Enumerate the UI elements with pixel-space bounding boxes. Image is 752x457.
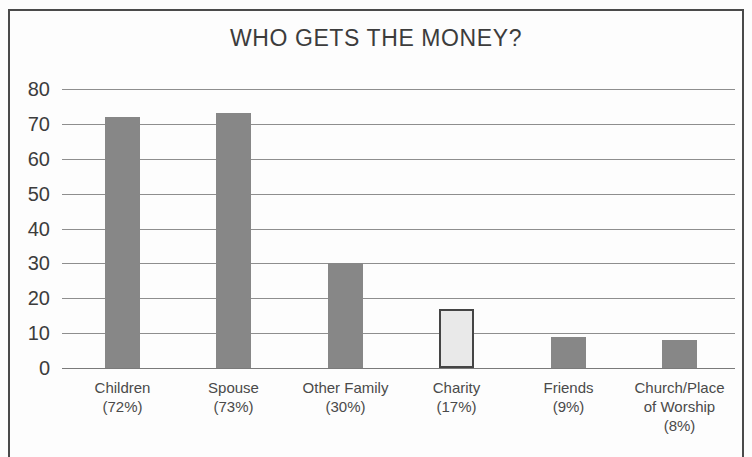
- gridline-60: [62, 159, 735, 160]
- x-label-4: Friends(9%): [509, 378, 629, 416]
- gridline-80: [62, 89, 735, 90]
- y-tick-label-80: 80: [6, 79, 50, 99]
- x-label-name: Spouse: [174, 378, 294, 397]
- plot-area: [62, 89, 735, 368]
- gridline-50: [62, 194, 735, 195]
- x-label-percent: (30%): [286, 397, 406, 416]
- y-axis-tick-labels: 80706050403020100: [0, 89, 50, 368]
- bar-0[interactable]: [105, 117, 140, 368]
- x-label-1: Spouse(73%): [174, 378, 294, 416]
- bar-3[interactable]: [439, 309, 474, 368]
- y-tick-label-10: 10: [6, 323, 50, 343]
- chart-title: WHO GETS THE MONEY?: [0, 25, 752, 52]
- bar-2[interactable]: [328, 263, 363, 368]
- x-label-name: Church/Place: [620, 378, 740, 397]
- bar-5[interactable]: [662, 340, 697, 368]
- x-axis-category-labels: Children(72%)Spouse(73%)Other Family(30%…: [62, 378, 735, 454]
- x-label-3: Charity(17%): [397, 378, 517, 416]
- x-label-5: Church/Placeof Worship(8%): [620, 378, 740, 435]
- x-label-name: Other Family: [286, 378, 406, 397]
- y-tick-label-40: 40: [6, 219, 50, 239]
- chart-figure: WHO GETS THE MONEY? 80706050403020100 Ch…: [0, 0, 752, 457]
- x-label-percent: (72%): [63, 397, 183, 416]
- bar-1[interactable]: [216, 113, 251, 368]
- y-tick-label-60: 60: [6, 149, 50, 169]
- y-tick-label-70: 70: [6, 114, 50, 134]
- gridline-30: [62, 263, 735, 264]
- x-label-name: Children: [63, 378, 183, 397]
- x-label-2: Other Family(30%): [286, 378, 406, 416]
- x-label-0: Children(72%): [63, 378, 183, 416]
- gridline-0: [62, 368, 735, 369]
- x-label-percent: (9%): [509, 397, 629, 416]
- x-label-name: Friends: [509, 378, 629, 397]
- gridline-10: [62, 333, 735, 334]
- y-tick-label-50: 50: [6, 184, 50, 204]
- x-label-percent: (17%): [397, 397, 517, 416]
- bar-4[interactable]: [551, 337, 586, 368]
- y-tick-label-20: 20: [6, 288, 50, 308]
- gridline-40: [62, 229, 735, 230]
- y-tick-label-0: 0: [6, 358, 50, 378]
- x-label-percent: (73%): [174, 397, 294, 416]
- x-label-name: Charity: [397, 378, 517, 397]
- y-tick-label-30: 30: [6, 253, 50, 273]
- x-label-percent: (8%): [620, 416, 740, 435]
- x-label-name: of Worship: [620, 397, 740, 416]
- gridline-70: [62, 124, 735, 125]
- gridline-20: [62, 298, 735, 299]
